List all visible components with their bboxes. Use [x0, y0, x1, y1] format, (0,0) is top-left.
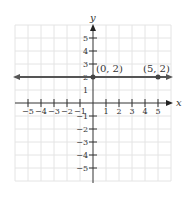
y-tick-label: −4: [76, 151, 88, 160]
x-tick-label: 1: [103, 107, 108, 116]
x-axis-arrow-icon: [166, 100, 173, 106]
y-tick-label: −2: [76, 125, 88, 134]
x-axis: x −5 −4 −3 −2 −1 1 2 3 4 5: [15, 97, 182, 116]
y-tick-label: 3: [83, 60, 88, 69]
coordinate-plane: x −5 −4 −3 −2 −1 1 2 3 4 5 y 5 4 3 2 1: [0, 0, 189, 201]
x-tick-label: 2: [116, 107, 121, 116]
line-arrow-left-icon: [13, 74, 20, 80]
line-arrow-right-icon: [166, 74, 173, 80]
y-axis-label: y: [89, 12, 96, 23]
point-5-2: [156, 75, 161, 80]
y-tick-label: 5: [83, 34, 88, 43]
x-tick-label: 5: [155, 107, 160, 116]
point-label-5-2: (5, 2): [143, 63, 170, 74]
x-tick-label: −5: [22, 107, 34, 116]
x-tick-label: −4: [35, 107, 47, 116]
y-tick-label: 1: [83, 86, 88, 95]
x-tick-label: −2: [61, 107, 73, 116]
y-tick-label: −1: [76, 112, 88, 121]
point-0-2: [91, 75, 96, 80]
y-tick-label: −5: [76, 164, 88, 173]
x-axis-label: x: [176, 97, 182, 108]
x-tick-label: 3: [129, 107, 134, 116]
y-tick-label: 4: [83, 47, 88, 56]
point-label-0-2: (0, 2): [96, 63, 123, 74]
x-tick-label: 4: [142, 107, 147, 116]
x-tick-label: −3: [48, 107, 60, 116]
y-tick-label: −3: [76, 138, 88, 147]
